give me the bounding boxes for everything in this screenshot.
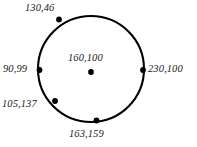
point-top-left [56, 17, 62, 23]
point-center [88, 69, 94, 75]
label-point-center: 160,100 [68, 53, 103, 64]
label-point-top-left: 130,46 [25, 3, 54, 14]
label-point-right: 230,100 [148, 64, 183, 75]
label-point-bottom: 163,159 [69, 129, 104, 140]
label-point-lower-left: 105,137 [2, 99, 37, 110]
circle-diagram-canvas: 130,46 90,99 230,100 105,137 163,159 160… [0, 0, 197, 147]
point-bottom [94, 118, 100, 124]
point-left [37, 67, 43, 73]
point-right [140, 67, 146, 73]
label-point-left: 90,99 [3, 64, 27, 75]
circle-outline [38, 16, 144, 122]
point-lower-left [52, 98, 58, 104]
